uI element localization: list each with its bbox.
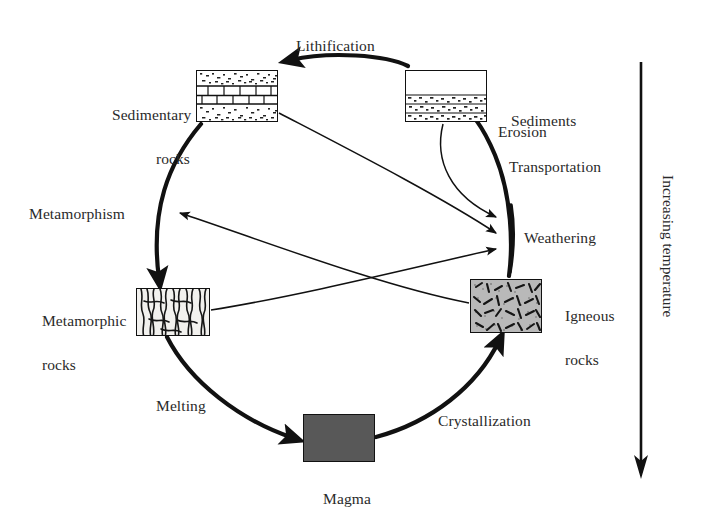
igneous-rocks-label-line2: rocks: [565, 351, 599, 368]
lithification-text: Lithification: [296, 37, 375, 54]
metamorphism-label: Metamorphism: [29, 203, 125, 225]
arrow-metamorphism-from-igneous: [180, 213, 469, 303]
swatch-metamorphic-rocks: [136, 288, 210, 336]
magma-label-line1: Magma: [323, 490, 371, 507]
melting-label: Melting: [156, 395, 206, 417]
arrow-melting: [167, 337, 293, 438]
metamorphic-rocks-label-line2: rocks: [42, 356, 76, 373]
temperature-axis-label: Increasing temperature: [659, 175, 677, 317]
crystallization-label: Crystallization: [438, 410, 531, 432]
metamorphic-rocks-label-line1: Metamorphic: [42, 312, 127, 329]
erosion-text: Erosion: [498, 123, 547, 140]
weathering-text: Weathering: [524, 229, 596, 246]
magma-label: Magma: [295, 466, 383, 510]
arrow-weathering-from-sedimentary: [279, 113, 496, 233]
swatch-sedimentary-rocks: [196, 70, 278, 122]
swatch-igneous-rocks: [470, 279, 542, 333]
rock-cycle-diagram: Sedimentary rocks Sediments Igneous rock…: [0, 0, 710, 510]
metamorphism-text: Metamorphism: [29, 205, 125, 222]
crystallization-text: Crystallization: [438, 412, 531, 429]
melting-text: Melting: [156, 397, 206, 414]
transportation-label: Transportation: [509, 156, 601, 178]
igneous-rocks-label: Igneous rocks: [549, 283, 639, 393]
weathering-label: Weathering: [524, 227, 596, 249]
sedimentary-rocks-label-line1: Sedimentary: [112, 106, 191, 123]
swatch-magma: [303, 414, 375, 462]
igneous-rocks-label-line1: Igneous: [565, 307, 615, 324]
erosion-label: Erosion: [498, 121, 547, 143]
transportation-text: Transportation: [509, 158, 601, 175]
metamorphic-rocks-label: Metamorphic rocks: [26, 288, 136, 398]
sedimentary-rocks-label-line2: rocks: [156, 150, 190, 167]
swatch-sediments: [405, 70, 487, 122]
lithification-label: Lithification: [296, 35, 375, 57]
arrow-weathering-from-metamorphic: [211, 249, 496, 310]
temperature-axis-text: Increasing temperature: [660, 175, 677, 317]
sedimentary-rocks-label: Sedimentary rocks: [96, 82, 190, 192]
